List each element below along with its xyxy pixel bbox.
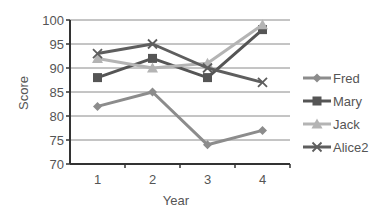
y-tick-label: 75 bbox=[50, 133, 64, 148]
square-marker-icon bbox=[203, 73, 212, 82]
y-tick-label: 95 bbox=[50, 37, 64, 52]
y-axis-label: Score bbox=[16, 76, 31, 110]
x-axis-label: Year bbox=[163, 193, 190, 208]
legend-item-fred: Fred bbox=[303, 71, 360, 86]
square-marker-icon bbox=[148, 54, 157, 63]
y-tick-label: 85 bbox=[50, 85, 64, 100]
legend-label: Alice2 bbox=[333, 140, 368, 155]
legend-item-mary: Mary bbox=[303, 94, 362, 109]
line-chart: 707580859095100 1234 Score Year FredMary… bbox=[0, 0, 390, 219]
y-axis-ticks: 707580859095100 bbox=[42, 13, 70, 172]
x-tick-label: 1 bbox=[94, 172, 101, 187]
x-axis-ticks: 1234 bbox=[94, 164, 290, 187]
legend-label: Fred bbox=[333, 71, 360, 86]
diamond-marker-icon bbox=[258, 126, 267, 135]
triangle-marker-icon bbox=[257, 19, 268, 29]
x-tick-label: 4 bbox=[259, 172, 266, 187]
legend-label: Mary bbox=[333, 94, 362, 109]
legend: FredMaryJackAlice2 bbox=[303, 71, 368, 155]
series-line bbox=[98, 30, 263, 78]
legend-item-jack: Jack bbox=[303, 117, 360, 132]
legend-item-alice2: Alice2 bbox=[303, 140, 368, 155]
x-tick-label: 3 bbox=[204, 172, 211, 187]
square-marker-icon bbox=[313, 97, 322, 106]
series-line bbox=[98, 25, 263, 68]
y-tick-label: 70 bbox=[50, 157, 64, 172]
diamond-marker-icon bbox=[313, 74, 322, 83]
square-marker-icon bbox=[93, 73, 102, 82]
y-tick-label: 100 bbox=[42, 13, 64, 28]
data-series bbox=[92, 19, 268, 149]
y-tick-label: 80 bbox=[50, 109, 64, 124]
legend-label: Jack bbox=[333, 117, 360, 132]
x-tick-label: 2 bbox=[149, 172, 156, 187]
series-line bbox=[98, 92, 263, 145]
y-tick-label: 90 bbox=[50, 61, 64, 76]
diamond-marker-icon bbox=[93, 102, 102, 111]
series-mary bbox=[93, 25, 267, 82]
